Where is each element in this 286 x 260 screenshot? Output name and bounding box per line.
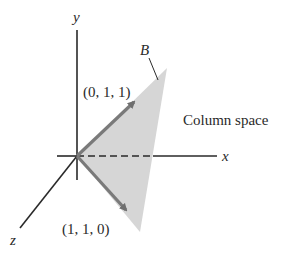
plane-label-leader <box>149 58 158 80</box>
column-space-diagram: y x z (0, 1, 1) (1, 1, 0) B Column space <box>0 0 286 260</box>
column-space-label: Column space <box>183 112 269 128</box>
z-axis <box>20 156 77 228</box>
x-axis-label: x <box>221 148 229 164</box>
vector-0-1-1-label: (0, 1, 1) <box>83 84 131 101</box>
y-axis-label: y <box>71 9 80 25</box>
plane-label-b: B <box>140 42 149 58</box>
vector-1-1-0-label: (1, 1, 0) <box>62 221 110 238</box>
z-axis-label: z <box>9 232 16 248</box>
